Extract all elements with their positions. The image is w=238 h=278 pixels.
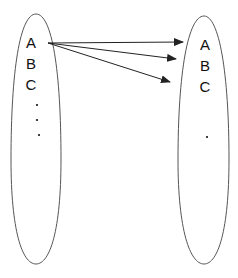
left-ellipsis-dot (38, 134, 40, 136)
arrow-a-to-c (48, 43, 170, 82)
arrow-a-to-b (48, 43, 176, 59)
mapping-diagram: A B C A B C (0, 0, 238, 278)
left-set: A B C (11, 14, 61, 264)
right-ellipse (178, 16, 229, 264)
left-ellipsis-dot (36, 104, 38, 106)
right-element-b: B (200, 57, 210, 74)
right-element-c: C (200, 78, 211, 95)
mapping-arrows (48, 42, 183, 82)
left-ellipse (11, 14, 61, 264)
left-ellipsis-dot (36, 119, 38, 121)
left-element-b: B (26, 55, 36, 72)
left-element-a: A (26, 34, 36, 51)
right-element-a: A (200, 36, 210, 53)
right-ellipsis-dot (206, 136, 208, 138)
right-set: A B C (178, 16, 229, 264)
arrow-a-to-a (48, 42, 183, 43)
left-element-c: C (26, 76, 37, 93)
